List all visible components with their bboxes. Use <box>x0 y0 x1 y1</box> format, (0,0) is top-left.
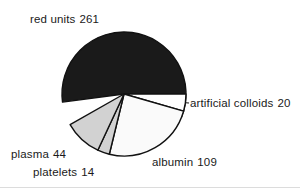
pie-label-artificial-colloids-text: artificial colloids <box>190 97 273 109</box>
pie-label-artificial-colloids: artificial colloids20 <box>190 97 290 110</box>
pie-label-artificial-colloids-value: 20 <box>277 97 290 109</box>
pie-label-platelets: platelets14 <box>33 166 94 179</box>
pie-label-red-units-text: red units <box>30 13 75 25</box>
pie-label-platelets-text: platelets <box>33 166 77 178</box>
pie-label-albumin-text: albumin <box>152 156 193 168</box>
pie-label-red-units: red units261 <box>30 13 99 26</box>
pie-chart-figure: red units261 artificial colloids20 album… <box>0 0 300 188</box>
pie-slice-group <box>62 32 186 156</box>
pie-label-plasma-text: plasma <box>11 148 49 160</box>
pie-label-plasma-value: 44 <box>53 148 66 160</box>
pie-label-platelets-value: 14 <box>81 166 94 178</box>
pie-label-red-units-value: 261 <box>79 13 99 25</box>
pie-label-plasma: plasma44 <box>11 148 66 161</box>
pie-label-albumin: albumin109 <box>152 156 217 169</box>
pie-label-albumin-value: 109 <box>197 156 217 168</box>
